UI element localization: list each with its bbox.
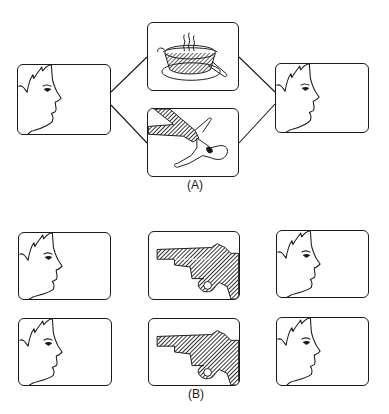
doll-with-hand-icon [148, 109, 238, 176]
caption-panel-b: (B) [188, 387, 204, 401]
frame-b-r2-right-face [276, 317, 369, 386]
face-profile-icon [276, 64, 368, 132]
face-profile-icon [277, 231, 368, 297]
face-profile-icon [19, 233, 110, 299]
face-profile-icon [19, 319, 111, 385]
caption-panel-a: (A) [187, 178, 203, 192]
steaming-pot-icon [148, 23, 238, 90]
connector-right-top [239, 57, 275, 92]
revolver-icon [149, 232, 239, 299]
frame-a-top-pot [147, 22, 239, 91]
frame-b-r2-left-face [18, 318, 112, 386]
connector-left-top [111, 57, 147, 92]
frame-a-right-face [275, 63, 369, 133]
kuleshov-diagram: (A) [0, 0, 389, 414]
face-profile-icon [277, 318, 368, 385]
revolver-icon [149, 319, 239, 385]
frame-a-left-face [17, 64, 111, 135]
frame-a-bottom-doll [147, 108, 239, 177]
frame-b-r1-right-face [276, 230, 369, 298]
connector-right-bottom [239, 104, 275, 143]
face-profile-icon [18, 65, 110, 134]
frame-b-r1-mid-revolver [148, 231, 240, 300]
connector-left-bottom [111, 105, 147, 143]
frame-b-r1-left-face [18, 232, 111, 300]
frame-b-r2-mid-revolver [148, 318, 240, 386]
